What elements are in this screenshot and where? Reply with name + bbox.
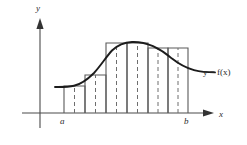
function-label: y = f(x) <box>203 68 231 77</box>
x-axis-arrow-icon <box>203 109 214 116</box>
x-axis-label: x <box>219 110 223 119</box>
lower-bound-label: a <box>60 117 65 126</box>
riemann-rectangles <box>64 43 188 113</box>
function-curve <box>55 42 215 87</box>
midpoint-dashed-lines <box>75 43 179 113</box>
riemann-sum-figure: y x a b y = f(x) <box>0 0 247 145</box>
upper-bound-label: b <box>184 117 189 126</box>
y-axis-arrow-icon <box>36 18 43 29</box>
table-row <box>85 75 106 113</box>
y-axis-label: y <box>36 4 40 13</box>
y-axis <box>36 18 43 128</box>
